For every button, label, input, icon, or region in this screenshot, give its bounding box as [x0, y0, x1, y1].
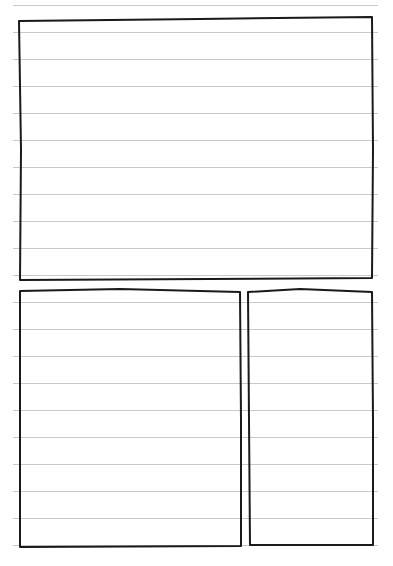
lined-paper [0, 0, 393, 566]
bottom-right-panel-box [248, 289, 373, 545]
sketch-boxes [0, 0, 393, 566]
bottom-left-panel-box [20, 289, 241, 547]
top-panel-box [19, 17, 373, 280]
